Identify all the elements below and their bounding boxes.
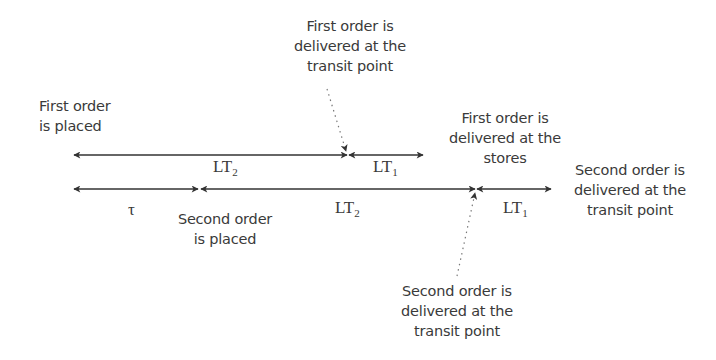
pointer-first-transit (327, 89, 346, 151)
label-first-delivered-stores: First order is delivered at the stores (430, 108, 580, 168)
segment-label-text: LT (373, 157, 392, 176)
label-first-delivered-transit: First order is delivered at the transit … (270, 16, 430, 76)
label-second-order-placed: Second order is placed (160, 209, 290, 249)
label-first-order-placed: First order is placed (39, 96, 111, 136)
segment-label-text: LT (213, 157, 232, 176)
label-second-delivered-transit-bottom: Second order is delivered at the transit… (377, 281, 537, 341)
segment-label-subscript: 2 (354, 207, 360, 219)
segment-label-text: LT (335, 198, 354, 217)
segment-label-t2-lt1: LT1 (503, 198, 528, 219)
segment-label-text: τ (128, 200, 135, 219)
label-second-delivered-transit-right: Second order is delivered at the transit… (550, 160, 710, 220)
pointer-second-transit (457, 193, 475, 276)
segment-label-t2-tau: τ (128, 200, 135, 220)
segment-label-text: LT (503, 198, 522, 217)
order-timeline-diagram: First order is placed First order is del… (0, 0, 716, 360)
segment-label-subscript: 2 (232, 166, 238, 178)
segment-label-subscript: 1 (392, 166, 398, 178)
segment-label-t1-lt1: LT1 (373, 157, 398, 178)
segment-label-t1-lt2: LT2 (213, 157, 238, 178)
segment-label-t2-lt2: LT2 (335, 198, 360, 219)
segment-label-subscript: 1 (522, 207, 528, 219)
